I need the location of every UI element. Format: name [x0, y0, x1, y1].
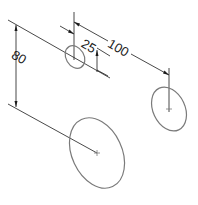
dimension-100-label: 100: [105, 36, 131, 60]
bottom-extension-line: [8, 104, 97, 153]
dimension-100: 100: [74, 22, 169, 112]
dimension-80: 80: [9, 25, 29, 107]
drawing-canvas: 80 100 25: [0, 0, 198, 205]
dimension-25: 25: [60, 26, 110, 76]
dimension-80-label: 80: [9, 47, 29, 67]
dimension-25-label: 25: [79, 36, 99, 56]
bottom-hole: [59, 109, 136, 197]
